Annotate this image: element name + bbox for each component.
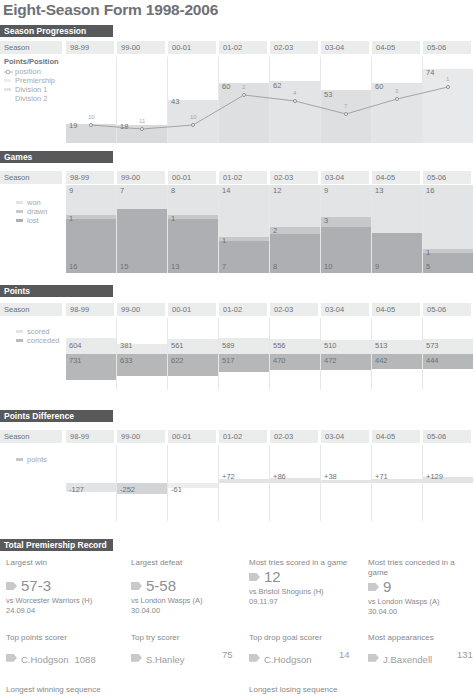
arrow-icon [131,582,142,590]
arrow-icon [249,654,260,662]
stat-value-row-0: C.Hodgson1088 [6,649,126,667]
page-title: Eight-Season Form 1998-2006 [3,1,218,19]
games-bar-won-2 [168,185,218,215]
games-bar-lost-3 [219,241,269,273]
pd-label-3: +72 [222,472,235,481]
position-dot-1 [140,127,144,131]
swatch-scored [16,330,23,333]
pd-label-0: -127 [69,485,84,494]
section-header-record: Total Premiership Record [0,539,113,551]
record-date-3: 30.04.00 [368,607,474,617]
season-cell-p0: 98-99 [66,303,114,316]
stat-name-3: J.Baxendell [383,654,432,665]
games-drawn-label-2: 1 [171,214,175,223]
record-value-2: 12 [264,568,281,585]
stat-number-3: 131 [457,649,473,660]
games-bar-drawn-5 [321,217,371,227]
position-label-1: 11 [139,118,145,124]
position-dot-7 [446,85,450,89]
section-header-points: Points [0,285,113,297]
games-lost-label-7: 5 [426,262,430,271]
record-opponent-3: vs London Wasps (A) [368,597,474,607]
section-title-progression: Season Progression [4,26,86,36]
games-bar-lost-6 [372,233,422,273]
legend-item-scored: scored [16,327,66,336]
games-lost-label-4: 8 [273,262,277,271]
position-label-0: 10 [88,114,95,120]
position-dot-2 [191,123,195,127]
swatch-won [16,201,23,204]
position-dot-4 [293,99,297,103]
legend-item-lost: lost [16,216,62,225]
games-lost-label-1: 15 [120,262,128,271]
games-lost-label-3: 7 [222,262,226,271]
season-cell-d0: 98-99 [66,430,114,443]
legend-item-premiership: Premiership [4,76,64,85]
points-scored-label-2: 561 [171,341,184,350]
stat-caption-3: Most appearances [368,633,474,643]
season-cell-p3: 01-02 [219,303,267,316]
record-value-row-3: 9 [368,578,474,595]
games-drawn-label-0: 1 [69,214,73,223]
legend-item-position: position [4,67,64,76]
points-conceded-label-4: 470 [273,356,286,365]
swatch-pd-points [16,458,23,461]
record-opponent-2: vs Bristol Shoguns (H) [249,587,364,597]
legend-item-won: won [16,198,62,207]
points-scored-label-1: 381 [120,341,133,350]
games-lost-label-2: 13 [171,262,179,271]
points-scored-label-0: 604 [69,341,82,350]
position-line [66,57,471,143]
arrow-icon [131,654,142,662]
record-value-row-2: 12 [249,568,364,585]
record-caption-1: Largest defeat [131,558,246,568]
sequence-longest-losing: Longest losing sequence [249,678,338,696]
games-won-label-6: 13 [375,186,383,195]
season-cell-g3: 01-02 [219,171,267,184]
position-label-5: 7 [344,103,347,109]
season-cell-g6: 04-05 [372,171,420,184]
record-value-1: 5-58 [146,577,176,594]
legend-games: won drawn lost [16,198,62,225]
stat-caption-1: Top try scorer [131,633,246,643]
stat-number-1: 75 [222,649,233,660]
arrow-icon [249,573,260,581]
points-conceded-label-6: 442 [375,356,388,365]
record-date-1: 30.04.00 [131,606,246,616]
games-bar-drawn-4 [270,227,320,234]
stat-name-2: C.Hodgson [264,654,312,665]
season-cell-p5: 03-04 [321,303,369,316]
games-bar-won-5 [321,185,371,217]
season-header-row-pd: Season 98-99 99-00 00-01 01-02 02-03 03-… [0,430,474,443]
legend-item-pd-points: points [16,455,66,464]
position-dot-0 [89,123,93,127]
season-cell-p6: 04-05 [372,303,420,316]
legend-label-drawn: drawn [27,207,47,216]
sequence-caption-1: Longest losing sequence [249,685,338,694]
position-label-4: 4 [293,90,296,96]
swatch-lost [16,219,23,222]
season-header-row-games: Season 98-99 99-00 00-01 01-02 02-03 03-… [0,171,474,184]
season-cell-d6: 04-05 [372,430,420,443]
position-dot-3 [242,93,246,97]
record-date-0: 24.09.04 [6,606,126,616]
games-won-label-5: 9 [324,186,328,195]
season-cell-1: 99-00 [117,41,165,54]
legend-item-division1: Division 1 [4,85,64,94]
sequence-longest-winning: Longest winning sequence [6,678,101,696]
points-scored-label-6: 513 [375,341,388,350]
games-lost-label-0: 16 [69,262,77,271]
stat-name-0: C.Hodgson [21,654,69,665]
points-scored-label-4: 556 [273,341,286,350]
record-card-largest-win: Largest win 57-3 vs Worcester Warriors (… [6,558,126,615]
sequence-caption-0: Longest winning sequence [6,685,101,694]
chart-games: 9 7 8 14 12 9 13 16 1 1 1 2 3 1 16 15 13… [66,185,471,273]
stat-value-row-1: S.Hanley75 [131,649,246,667]
record-date-2: 09.11.97 [249,597,364,607]
section-title-games: Games [4,152,32,162]
season-cell-6: 04-05 [372,41,420,54]
legend-label-conceded: conceded [27,336,60,345]
games-won-label-7: 16 [426,186,434,195]
season-cell-3: 01-02 [219,41,267,54]
legend-label-division1: Division 1 [15,85,48,94]
